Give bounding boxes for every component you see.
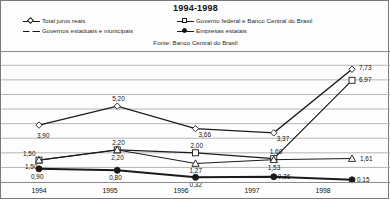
x-axis: 1994 1995 1996 1997 1998	[1, 182, 390, 200]
xtick-1998: 1998	[303, 187, 343, 194]
legend-label: Governos estaduais e municipais	[42, 27, 133, 35]
data-label: 2,20	[112, 139, 124, 146]
data-label: 1,60	[270, 148, 282, 155]
page-title: 1994-1998	[1, 3, 390, 13]
data-label: 0,90	[31, 173, 43, 180]
chart-header: 1994-1998 Total juros reais Governos est…	[1, 1, 390, 52]
legend-item-governo-federal-e-banco-central: Governo federal e Banco Central do Brasi…	[177, 17, 312, 25]
data-label: 3,66	[199, 131, 211, 138]
data-label: 1,50	[23, 150, 35, 157]
data-label: 5,20	[112, 95, 124, 102]
legend-item-empresas-estatais: Empresas estatais	[177, 27, 247, 35]
xtick-1996: 1996	[161, 187, 201, 194]
data-label: 1,27	[190, 167, 202, 174]
data-label: 0,80	[109, 174, 121, 181]
data-label: 2,00	[191, 142, 203, 149]
xtick-1995: 1995	[90, 187, 130, 194]
data-label: 6,97	[359, 76, 371, 83]
source-note: Fonte: Banco Central do Brasil	[1, 39, 390, 46]
data-label: 1,50	[25, 163, 37, 170]
xtick-1997: 1997	[232, 187, 272, 194]
data-label: 3,37	[277, 135, 289, 142]
filled-circle-marker-icon	[177, 27, 194, 35]
legend-label: Total juros reais	[42, 17, 85, 25]
xtick-1994: 1994	[19, 187, 59, 194]
square-open-marker-icon	[177, 17, 194, 25]
triangle-open-marker-icon	[23, 27, 40, 35]
data-label: 3,90	[37, 132, 49, 139]
data-label: 2,20	[111, 154, 123, 161]
legend-item-governos-estaduais-e-municipais: Governos estaduais e municipais	[23, 27, 133, 35]
plot-svg	[1, 52, 390, 200]
data-label: 1,53	[268, 164, 280, 171]
legend-label: Empresas estatais	[196, 27, 247, 35]
data-label: 0,36	[278, 173, 290, 180]
legend-label: Governo federal e Banco Central do Brasi…	[196, 17, 312, 25]
data-label: 7,73	[359, 64, 371, 71]
data-label: 1,61	[360, 155, 372, 162]
plot-area: 3,905,203,663,377,731,502,202,001,606,97…	[1, 52, 390, 200]
